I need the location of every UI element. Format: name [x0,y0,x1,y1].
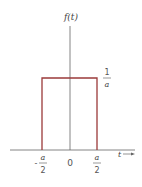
tick-neg-denominator: 2 [40,166,45,175]
x-axis-label: t [118,150,122,159]
tick-zero: 0 [67,158,73,168]
y-axis-label: f(t) [63,12,78,22]
height-numerator: 1 [104,68,109,77]
pulse-diagram: f(t) 1 a - a 2 0 a 2 t [0,0,142,187]
tick-pos-denominator: 2 [94,166,99,175]
pulse-shape [42,78,97,150]
height-denominator: a [105,80,110,89]
tick-neg-numerator: a [41,153,46,162]
tick-pos-numerator: a [95,153,100,162]
arrowhead-icon [131,153,135,156]
tick-neg-sign: - [35,159,38,168]
